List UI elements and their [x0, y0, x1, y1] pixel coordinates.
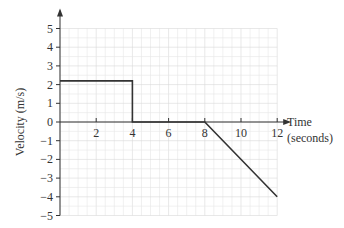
y-tick-label: −4: [40, 190, 53, 204]
y-tick-label: 5: [47, 22, 53, 36]
y-tick-label: −1: [40, 134, 53, 148]
axes: [56, 9, 291, 216]
x-tick-label: 12: [271, 126, 283, 140]
y-tick-label: −3: [40, 171, 53, 185]
y-tick-label: 1: [47, 96, 53, 110]
x-axis-label-line2: (seconds): [287, 131, 333, 145]
velocity-time-chart: 543210−1−2−3−4−524681012 Velocity (m/s) …: [0, 0, 344, 228]
y-tick-label: 2: [47, 78, 53, 92]
y-tick-label: −2: [40, 152, 53, 166]
x-tick-label: 6: [166, 126, 172, 140]
x-tick-label: 10: [235, 126, 247, 140]
x-axis-label: Time (seconds): [287, 115, 333, 145]
y-tick-label: −5: [40, 209, 53, 223]
y-axis-label: Velocity (m/s): [13, 88, 27, 156]
x-tick-label: 2: [93, 126, 99, 140]
x-axis-label-line1: Time: [287, 115, 312, 129]
y-tick-label: 0: [47, 115, 53, 129]
y-tick-label: 4: [47, 40, 53, 54]
x-tick-label: 4: [129, 126, 135, 140]
y-tick-label: 3: [47, 59, 53, 73]
x-tick-label: 8: [202, 126, 208, 140]
